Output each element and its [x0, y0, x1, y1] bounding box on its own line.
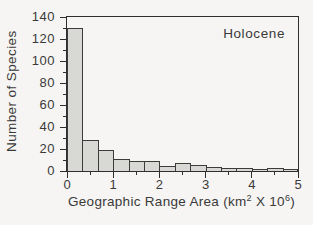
- histogram-bar: [67, 28, 83, 171]
- y-major-tick: [60, 127, 67, 128]
- x-axis-title-mid: X 10: [252, 194, 285, 209]
- histogram-bar: [82, 140, 98, 171]
- y-tick-label: 20: [15, 141, 55, 157]
- x-tick-label: 5: [287, 177, 309, 193]
- y-major-tick: [60, 39, 67, 40]
- x-tick-label: 3: [195, 177, 217, 193]
- x-tick-label: 0: [56, 177, 78, 193]
- y-tick-label: 140: [15, 9, 55, 25]
- y-tick-label: 80: [15, 75, 55, 91]
- y-tick-label: 100: [15, 53, 55, 69]
- y-minor-tick: [63, 94, 67, 95]
- histogram-bar: [267, 168, 283, 171]
- x-axis-title-text: Geographic Range Area (km: [68, 194, 247, 209]
- histogram-bar: [175, 163, 191, 171]
- histogram-bar: [98, 150, 114, 171]
- histogram-bar: [144, 161, 160, 171]
- histogram-figure: Number of Species Holocene 0204060801001…: [0, 0, 313, 225]
- plot-area: Holocene 020406080100120140012345: [66, 16, 299, 172]
- x-tick-label: 4: [241, 177, 263, 193]
- histogram-bar: [129, 161, 145, 171]
- histogram-bar: [206, 167, 222, 171]
- y-major-tick: [60, 83, 67, 84]
- y-tick-label: 60: [15, 97, 55, 113]
- y-minor-tick: [63, 116, 67, 117]
- y-major-tick: [60, 105, 67, 106]
- x-axis-title-close: ): [290, 194, 295, 209]
- y-tick-label: 40: [15, 119, 55, 135]
- x-axis-title: Geographic Range Area (km2 X 106): [66, 194, 297, 209]
- histogram-bar: [190, 165, 206, 172]
- y-major-tick: [60, 61, 67, 62]
- histogram-bar: [252, 169, 268, 171]
- histogram-bar: [113, 159, 129, 171]
- histogram-bar: [221, 168, 237, 171]
- y-tick-label: 0: [15, 163, 55, 179]
- y-minor-tick: [63, 28, 67, 29]
- x-minor-tick: [136, 172, 137, 175]
- histogram-bar: [283, 169, 298, 171]
- x-minor-tick: [228, 172, 229, 175]
- y-minor-tick: [63, 72, 67, 73]
- x-minor-tick: [182, 172, 183, 175]
- y-major-tick: [60, 149, 67, 150]
- x-tick-label: 2: [148, 177, 170, 193]
- histogram-bar: [236, 168, 252, 171]
- y-minor-tick: [63, 50, 67, 51]
- x-minor-tick: [90, 172, 91, 175]
- bars-layer: [67, 17, 298, 171]
- y-minor-tick: [63, 138, 67, 139]
- histogram-bar: [159, 166, 175, 171]
- y-minor-tick: [63, 160, 67, 161]
- y-major-tick: [60, 17, 67, 18]
- x-minor-tick: [274, 172, 275, 175]
- x-tick-label: 1: [102, 177, 124, 193]
- y-tick-label: 120: [15, 31, 55, 47]
